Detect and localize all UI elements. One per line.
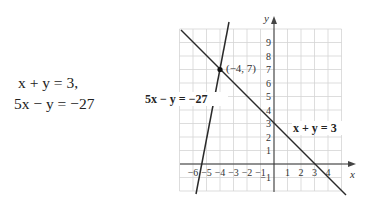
x-tick-label: 3 <box>312 167 317 178</box>
y-tick-label: 7 <box>266 64 271 75</box>
y-tick-label: 9 <box>266 37 271 48</box>
x-tick-label: −2 <box>242 167 253 178</box>
x-tick-label: −4 <box>215 167 226 178</box>
x-tick-label: 1 <box>285 167 290 178</box>
y-tick-label: −1 <box>260 172 271 183</box>
x-tick-label: −5 <box>201 167 212 178</box>
y-tick-label: 6 <box>266 78 271 89</box>
intersection-point <box>217 67 222 72</box>
y-tick-label: 2 <box>266 132 271 143</box>
x-tick-labels: −6−5−4−3−2−11234 <box>188 167 331 178</box>
coordinate-graph: x y −6−5−4−3−2−11234 987654321−1 (−4, 7)… <box>0 0 369 199</box>
intersection-label: (−4, 7) <box>226 62 256 75</box>
y-axis-label: y <box>263 12 269 24</box>
line-1-label: x + y = 3 <box>293 121 337 135</box>
x-tick-label: 2 <box>299 167 304 178</box>
x-axis-arrow-icon <box>348 161 356 167</box>
y-tick-label: 4 <box>266 105 271 116</box>
y-tick-label: 5 <box>266 91 271 102</box>
x-tick-label: −3 <box>228 167 239 178</box>
line-2-label: 5x − y = −27 <box>145 92 208 106</box>
y-tick-label: 8 <box>266 51 271 62</box>
y-tick-label: 1 <box>266 145 271 156</box>
y-axis-arrow-icon <box>271 16 277 24</box>
x-axis-label: x <box>349 168 355 180</box>
x-tick-label: −6 <box>188 167 199 178</box>
